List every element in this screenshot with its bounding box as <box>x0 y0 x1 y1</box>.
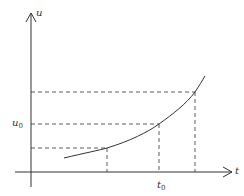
u0-label: u0 <box>12 118 23 130</box>
function-curve <box>64 76 205 158</box>
diagram-canvas <box>0 0 244 196</box>
u-axis-label: u <box>36 8 42 18</box>
horizontal-guides <box>31 92 195 148</box>
u0-label-sub: 0 <box>18 122 22 130</box>
vertical-guides <box>107 92 195 172</box>
t-axis-label: t <box>235 166 239 176</box>
t0-label: t0 <box>157 180 166 192</box>
t0-label-sub: 0 <box>161 184 165 192</box>
